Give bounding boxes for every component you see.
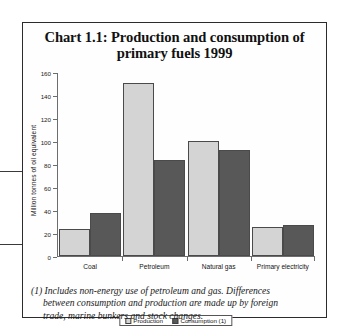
y-axis-tick-label: 120 [41,116,51,123]
chart-figure: Chart 1.1: Production and consumption of… [22,22,327,318]
bar-group [58,73,122,256]
x-axis-label: Primary electricity [251,263,315,270]
chart-title: Chart 1.1: Production and consumption of… [23,23,326,62]
bar-groups [58,73,315,256]
x-axis-tick [122,256,123,261]
bar-group [251,73,315,256]
x-axis-tick [187,256,188,261]
bar-consumption[interactable] [283,225,314,256]
y-axis-tick [53,96,58,97]
bar-group [187,73,251,256]
footnote-line-3: trade, marine bunkers and stock changes. [31,310,320,322]
y-axis-tick [53,188,58,189]
y-axis-tick-label: 20 [44,231,51,238]
y-axis-tick [53,73,58,74]
x-axis-tick [251,256,252,261]
bar-production[interactable] [188,141,219,256]
bar-consumption[interactable] [154,160,185,255]
y-axis-tick-label: 40 [44,208,51,215]
y-axis-tick-label: 160 [41,70,51,77]
footnote-line-2: between consumption and production are m… [31,297,320,309]
y-axis-label-text: Million tonnes of oil equivalent [31,124,38,215]
bar-consumption[interactable] [219,150,250,256]
plot-canvas: 020406080100120140160 [57,73,315,257]
y-axis-tick [53,119,58,120]
x-axis-label: Petroleum [122,263,186,270]
y-axis-label: Million tonnes of oil equivalent [27,95,41,245]
chart-title-line-2: primary fuels 1999 [33,45,316,61]
x-axis-label: Coal [58,263,122,270]
bar-production[interactable] [59,229,90,255]
y-axis-tick-label: 60 [44,185,51,192]
chart-title-line-1: Chart 1.1: Production and consumption of [33,29,316,45]
y-axis-tick [53,211,58,212]
y-axis-tick-label: 100 [41,139,51,146]
bar-group [122,73,186,256]
x-axis-label: Natural gas [187,263,251,270]
bar-production[interactable] [123,83,154,256]
plot-area: Million tonnes of oil equivalent 0204060… [23,67,328,281]
y-axis-tick-label: 80 [44,162,51,169]
bar-consumption[interactable] [90,213,121,256]
footnote-line-1: (1) Includes non-energy use of petroleum… [31,285,270,296]
x-axis-labels: CoalPetroleumNatural gasPrimary electric… [58,263,315,270]
y-axis-tick [53,142,58,143]
bar-production[interactable] [252,227,283,256]
y-axis-tick-label: 0 [48,254,51,261]
y-axis-tick-label: 140 [41,93,51,100]
y-axis-tick [53,257,58,258]
chart-footnote: (1) Includes non-energy use of petroleum… [29,285,320,322]
y-axis-tick [53,165,58,166]
x-axis-tick [314,256,315,261]
y-axis-tick [53,234,58,235]
page-edge-bracket [0,171,24,245]
